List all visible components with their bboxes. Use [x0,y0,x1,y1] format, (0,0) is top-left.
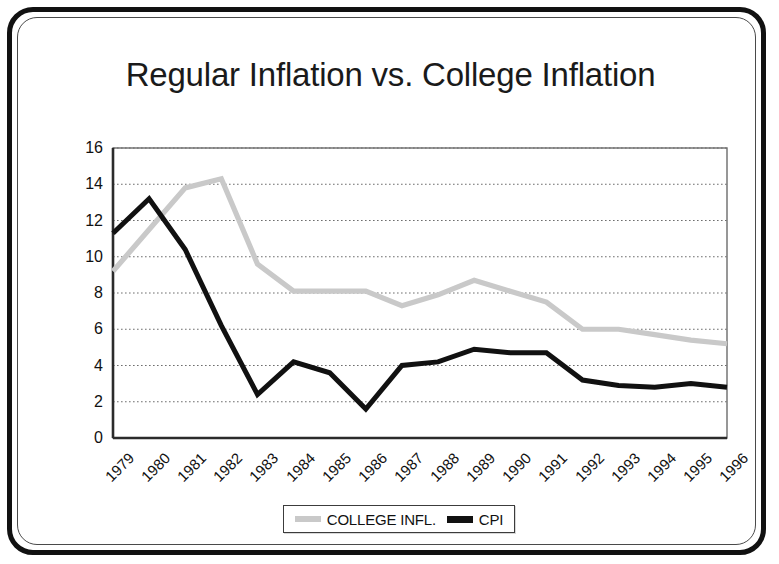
chart-frame-inner: Regular Inflation vs. College Inflation … [17,17,756,545]
y-tick-label-2: 2 [59,394,103,410]
y-tick-label-4: 4 [59,358,103,374]
legend-entry-cpi: CPI [447,511,503,528]
legend-swatch-icon [447,516,473,523]
y-tick-label-10: 10 [59,249,103,265]
legend-label: COLLEGE INFL. [327,511,436,528]
series-lines [113,179,727,409]
y-tick-label-14: 14 [59,176,103,192]
chart-card: Regular Inflation vs. College Inflation … [18,18,763,552]
plot-area: 0246810121416 19791980198119821983198419… [18,18,763,552]
y-tick-label-16: 16 [59,140,103,156]
y-tick-label-0: 0 [59,430,103,446]
chart-frame-outer: Regular Inflation vs. College Inflation … [7,7,766,555]
series-line-college-infl [113,179,727,344]
y-tick-label-8: 8 [59,285,103,301]
legend-swatch-icon [295,516,321,522]
chart-legend: COLLEGE INFL.CPI [283,505,515,533]
y-tick-label-12: 12 [59,213,103,229]
legend-entry-college-infl: COLLEGE INFL. [295,511,436,528]
series-line-cpi [113,199,727,409]
legend-label: CPI [479,511,503,528]
y-tick-label-6: 6 [59,321,103,337]
